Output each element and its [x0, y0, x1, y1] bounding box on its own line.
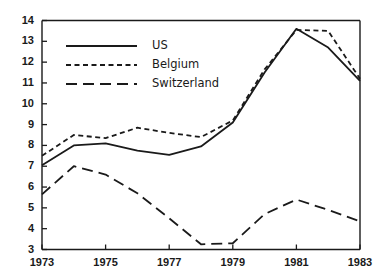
data-series-group — [42, 29, 360, 244]
x-tick-label-1977: 1977 — [146, 256, 192, 268]
y-tick-label-13: 13 — [8, 34, 34, 46]
x-tick-label-1981: 1981 — [273, 256, 319, 268]
x-tick-label-1983: 1983 — [337, 256, 383, 268]
y-tick-label-8: 8 — [8, 138, 34, 150]
series-line-belgium — [42, 30, 360, 156]
legend-label-belgium: Belgium — [152, 57, 199, 71]
y-tick-label-5: 5 — [8, 201, 34, 213]
y-tick-label-14: 14 — [8, 14, 34, 26]
x-tick-marks — [42, 245, 360, 250]
y-tick-label-6: 6 — [8, 180, 34, 192]
series-line-switzerland — [42, 166, 360, 244]
x-tick-label-1975: 1975 — [83, 256, 129, 268]
x-tick-label-1979: 1979 — [210, 256, 256, 268]
legend-sample-lines — [66, 46, 137, 84]
y-tick-label-10: 10 — [8, 97, 34, 109]
x-tick-label-1973: 1973 — [19, 256, 65, 268]
legend-label-us: US — [152, 38, 168, 52]
series-line-us — [42, 29, 360, 165]
y-tick-marks — [42, 21, 47, 250]
axis-lines — [42, 21, 360, 250]
y-tick-label-11: 11 — [8, 76, 34, 88]
y-tick-label-12: 12 — [8, 55, 34, 67]
y-tick-label-7: 7 — [8, 159, 34, 171]
y-tick-label-9: 9 — [8, 118, 34, 130]
legend-label-switzerland: Switzerland — [152, 76, 219, 90]
y-tick-label-4: 4 — [8, 222, 34, 234]
y-tick-label-3: 3 — [8, 243, 34, 255]
line-chart: 34567891011121314 1973197519771979198119… — [0, 0, 389, 278]
plot-area — [0, 0, 389, 278]
